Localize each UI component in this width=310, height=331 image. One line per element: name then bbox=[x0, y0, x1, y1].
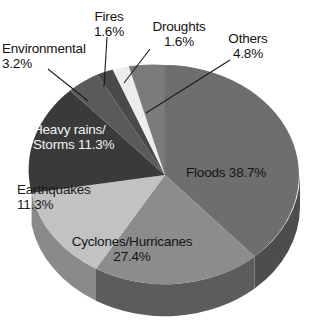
pie-label-environmental: Environmental 3.2% bbox=[2, 41, 86, 71]
pie-label-cyclones-hurricanes: Cyclones/Hurricanes 27.4% bbox=[57, 234, 207, 264]
pie-label-heavy-rains-storms: Heavy rains/ Storms 11.3% bbox=[33, 122, 114, 152]
pie-label-droughts: Droughts 1.6% bbox=[140, 19, 218, 49]
pie-label-floods: Floods 38.7% bbox=[186, 165, 266, 180]
pie-label-earthquakes: Earthquakes 11.3% bbox=[17, 182, 91, 212]
pie-chart: Environmental 3.2% Fires 1.6% Droughts 1… bbox=[0, 0, 310, 331]
pie-label-fires: Fires 1.6% bbox=[76, 9, 142, 39]
pie-label-others: Others 4.8% bbox=[217, 31, 279, 61]
